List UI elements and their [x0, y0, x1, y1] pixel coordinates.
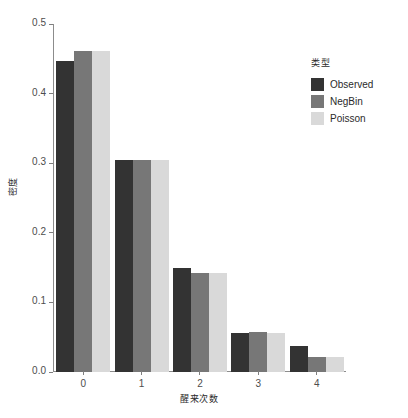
y-axis-tick-label: 0.4	[32, 87, 46, 98]
y-axis-tick-label: 0.1	[32, 295, 46, 306]
legend: 类型 ObservedNegBinPoisson	[311, 56, 405, 127]
bar-poisson-4	[326, 357, 344, 372]
bar-poisson-2	[209, 273, 227, 372]
legend-item-negbin[interactable]: NegBin	[311, 93, 405, 110]
bar-poisson-0	[92, 51, 110, 372]
legend-label-negbin: NegBin	[330, 96, 363, 107]
x-axis-tick-label: 2	[171, 378, 229, 389]
bar-negbin-0	[74, 51, 92, 372]
legend-item-poisson[interactable]: Poisson	[311, 110, 405, 127]
bar-group	[171, 24, 229, 372]
x-axis-tick-mark	[199, 371, 200, 375]
bar-observed-2	[173, 268, 191, 372]
bar-observed-0	[56, 61, 74, 372]
y-axis-tick-label: 0.0	[32, 365, 46, 376]
y-axis-tick-label: 0.2	[32, 226, 46, 237]
bar-observed-1	[115, 160, 133, 372]
y-axis-ticks: 0.00.10.20.30.40.5	[0, 0, 53, 418]
legend-label-poisson: Poisson	[330, 113, 366, 124]
bar-group	[54, 24, 112, 372]
legend-swatch-observed	[311, 78, 324, 91]
bar-negbin-1	[133, 160, 151, 372]
legend-items: ObservedNegBinPoisson	[311, 76, 405, 127]
y-axis-tick-label: 0.3	[32, 156, 46, 167]
bar-observed-4	[290, 346, 308, 372]
bar-negbin-4	[308, 357, 326, 372]
plot-area	[54, 24, 346, 372]
y-axis-tick-label: 0.5	[32, 17, 46, 28]
bar-poisson-3	[267, 333, 285, 372]
x-axis-title: 醒来次数	[53, 392, 345, 405]
x-axis-tick-mark	[83, 371, 84, 375]
legend-item-observed[interactable]: Observed	[311, 76, 405, 93]
legend-swatch-poisson	[311, 112, 324, 125]
x-axis-tick-mark	[141, 371, 142, 375]
x-axis-tick-label: 1	[112, 378, 170, 389]
bar-negbin-2	[191, 273, 209, 372]
density-bar-chart: 密度 0.00.10.20.30.40.5 01234 醒来次数 类型 Obse…	[0, 0, 408, 418]
x-axis-tick-mark	[258, 371, 259, 375]
bar-poisson-1	[151, 160, 169, 372]
legend-label-observed: Observed	[330, 79, 373, 90]
x-axis-tick-label: 0	[54, 378, 112, 389]
bar-observed-3	[231, 333, 249, 372]
x-axis-tick-label: 3	[229, 378, 287, 389]
bar-group	[112, 24, 170, 372]
x-axis-tick-label: 4	[288, 378, 346, 389]
bar-negbin-3	[249, 332, 267, 372]
x-axis-tick-mark	[316, 371, 317, 375]
legend-title: 类型	[311, 56, 405, 69]
bar-group	[229, 24, 287, 372]
legend-swatch-negbin	[311, 95, 324, 108]
